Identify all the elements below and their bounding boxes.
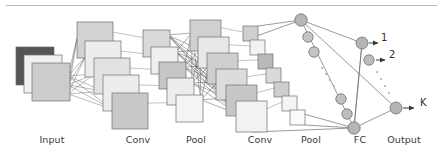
link-conv2-pool2-3 bbox=[247, 74, 266, 77]
input-feature-planes bbox=[16, 47, 70, 101]
fc-node-2 bbox=[309, 47, 319, 57]
pool2-map-1 bbox=[250, 40, 265, 55]
fc-dot-2 bbox=[329, 79, 331, 81]
pool2-map-2 bbox=[258, 54, 273, 69]
link-fc-outk-bot bbox=[354, 108, 396, 128]
output-class-label-k: K bbox=[420, 97, 427, 108]
output-dot-2 bbox=[384, 85, 386, 87]
output-class-label-1: 1 bbox=[381, 32, 387, 43]
output-node-outK bbox=[390, 102, 402, 114]
link-pool1-conv2-0-0 bbox=[168, 33, 192, 35]
pool2-map-3 bbox=[266, 68, 281, 83]
fc-dot-1 bbox=[325, 73, 327, 75]
fc-dot-3 bbox=[333, 85, 335, 87]
conv2-map-5 bbox=[236, 101, 267, 132]
pool2-map-5 bbox=[282, 96, 297, 111]
conv1-map-4 bbox=[112, 93, 148, 129]
fc-node-4 bbox=[342, 109, 352, 119]
layer-label-input: Input bbox=[12, 134, 92, 145]
pool2-map-0 bbox=[243, 26, 258, 41]
link-input-conv1-1-0 bbox=[68, 57, 85, 76]
layer-label-output: Output bbox=[364, 134, 443, 145]
pool2-map-4 bbox=[274, 82, 289, 97]
output-dot-1 bbox=[380, 78, 382, 80]
pool2-map-6 bbox=[290, 110, 305, 125]
output-ellipsis-dots bbox=[376, 71, 390, 94]
link-conv1-pool1-0 bbox=[113, 32, 143, 37]
link-conv2-pool2-4 bbox=[257, 88, 274, 93]
fc-node-3 bbox=[336, 94, 346, 104]
link-conv2-pool2-0 bbox=[221, 28, 243, 32]
fc-dot-0 bbox=[321, 67, 323, 69]
output-dot-3 bbox=[388, 92, 390, 94]
figure-canvas: Input Conv Pool Conv Pool FC Output 1 2 … bbox=[0, 0, 443, 163]
link-conv2-fc-bot bbox=[253, 128, 354, 132]
link-conv2-pool2-2 bbox=[238, 60, 258, 61]
output-node-out1 bbox=[356, 37, 368, 49]
fc-node-0 bbox=[295, 14, 307, 26]
output-dot-0 bbox=[376, 71, 378, 73]
link-conv2-pool2-5 bbox=[267, 102, 282, 109]
pool1-map-4 bbox=[176, 95, 203, 122]
input-plane-2 bbox=[32, 63, 70, 101]
fc-node-1 bbox=[303, 32, 313, 42]
link-pool2-fc-bot-a bbox=[305, 125, 354, 128]
link-out1-spine bbox=[354, 43, 362, 128]
output-node-out2 bbox=[364, 55, 374, 65]
fc-ellipsis-dots bbox=[321, 67, 335, 87]
link-conv2-pool2-1 bbox=[229, 45, 250, 46]
conv1-feature-maps bbox=[77, 22, 148, 129]
fc-node-5 bbox=[348, 122, 360, 134]
output-class-label-2: 2 bbox=[389, 49, 395, 60]
